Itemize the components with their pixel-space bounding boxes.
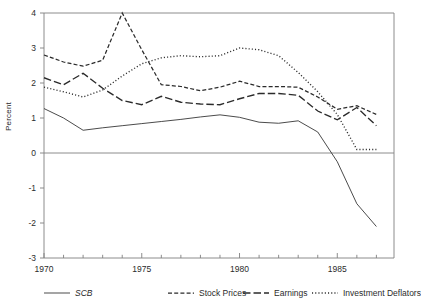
legend-line-swatch-dashed (168, 288, 194, 298)
y-tick-label: 4 (16, 8, 36, 18)
legend-item-earnings[interactable]: Earnings (243, 284, 308, 302)
legend-label: Stock Prices (199, 288, 246, 298)
legend-line-swatch-dotted (312, 288, 338, 298)
legend-item-scb[interactable]: SCB (44, 284, 92, 302)
y-tick-label: -3 (16, 253, 36, 263)
plot-frame (44, 13, 394, 258)
y-tick-label: 3 (16, 43, 36, 53)
series-line-stock-prices (44, 13, 376, 115)
legend-label: Earnings (274, 288, 308, 298)
y-tick-label: 0 (16, 148, 36, 158)
chart-legend: SCBStock PricesEarningsInvestment Deflat… (0, 284, 403, 304)
legend-label: Investment Deflators (343, 288, 421, 298)
y-tick-label: 1 (16, 113, 36, 123)
legend-item-investment-deflators[interactable]: Investment Deflators (312, 284, 421, 302)
x-tick-label: 1975 (122, 264, 162, 274)
legend-line-swatch-solid (44, 288, 70, 298)
legend-label: SCB (75, 288, 92, 298)
legend-item-stock-prices[interactable]: Stock Prices (168, 284, 246, 302)
y-tick-label: -1 (16, 183, 36, 193)
y-tick-label: -2 (16, 218, 36, 228)
legend-line-swatch-long-dash (243, 288, 269, 298)
series-line-scb (44, 109, 376, 227)
x-tick-label: 1970 (24, 264, 64, 274)
series-line-earnings (44, 73, 376, 126)
y-tick-label: 2 (16, 78, 36, 88)
x-tick-label: 1980 (220, 264, 260, 274)
x-tick-label: 1985 (317, 264, 357, 274)
